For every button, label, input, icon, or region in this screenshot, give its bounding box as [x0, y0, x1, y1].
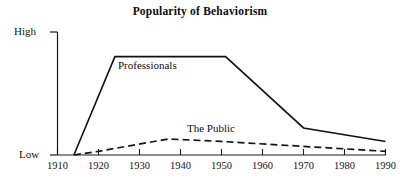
x-tick-label-1970: 1970 — [293, 160, 314, 171]
x-tick-label-1960: 1960 — [252, 160, 273, 171]
y-axis-label-high: High — [14, 25, 36, 37]
x-tick-label-1980: 1980 — [334, 160, 355, 171]
x-tick-label-1950: 1950 — [211, 160, 232, 171]
y-axis-label-low: Low — [19, 148, 39, 160]
x-tick-label-1910: 1910 — [47, 160, 68, 171]
x-tick-label-1990: 1990 — [375, 160, 396, 171]
chart-plot-area — [0, 0, 400, 183]
series-line-professionals — [74, 57, 386, 155]
chart-container: Popularity of Behaviorism High Low 19101 — [0, 0, 400, 183]
x-tick-label-1920: 1920 — [88, 160, 109, 171]
x-tick-label-1930: 1930 — [129, 160, 150, 171]
x-tick-label-1940: 1940 — [170, 160, 191, 171]
series-line-the-public — [74, 139, 386, 155]
series-label-professionals: Professionals — [118, 59, 177, 71]
series-label-the-public: The Public — [187, 122, 235, 134]
